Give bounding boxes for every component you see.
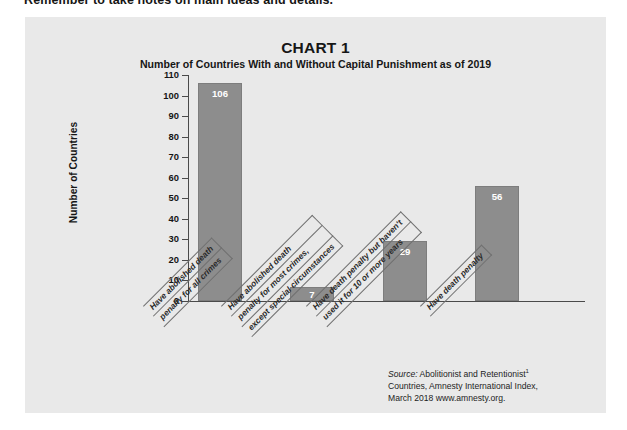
page-root: Remember to take notes on main ideas and… xyxy=(0,0,627,430)
bar-value-106: 106 xyxy=(198,88,242,99)
y-tick-label-30: 30 xyxy=(153,234,179,243)
source-superscript: 1 xyxy=(526,368,529,374)
y-tick-label-50: 50 xyxy=(153,193,179,202)
y-tick-70 xyxy=(182,157,188,158)
source-note: Source: Abolitionist and Retentionist1 C… xyxy=(388,365,598,404)
instruction-text: Remember to take notes on main ideas and… xyxy=(24,0,333,7)
y-tick-label-70: 70 xyxy=(153,152,179,161)
y-tick-30 xyxy=(182,239,188,240)
y-tick-label-100: 100 xyxy=(153,91,179,100)
y-tick-90 xyxy=(182,116,188,117)
source-line-2: Countries, Amnesty International Index, xyxy=(388,381,538,391)
y-tick-50 xyxy=(182,198,188,199)
y-tick-40 xyxy=(182,219,188,220)
y-tick-label-40: 40 xyxy=(153,214,179,223)
y-tick-label-90: 90 xyxy=(153,111,179,120)
source-line-3: March 2018 www.amnesty.org. xyxy=(388,393,505,403)
plot-area: Number of Countries 110 100 90 80 70 60 … xyxy=(25,17,606,413)
y-tick-60 xyxy=(182,178,188,179)
chart-panel: CHART 1 Number of Countries With and Wit… xyxy=(25,17,606,413)
y-tick-label-60: 60 xyxy=(153,173,179,182)
y-tick-80 xyxy=(182,137,188,138)
source-label: Source: xyxy=(388,369,418,379)
y-tick-label-20: 20 xyxy=(153,255,179,264)
y-tick-label-80: 80 xyxy=(153,132,179,141)
bar-value-56: 56 xyxy=(475,191,519,202)
y-tick-100 xyxy=(182,96,188,97)
source-line-1: Abolitionist and Retentionist xyxy=(418,369,526,379)
y-tick-label-110: 110 xyxy=(153,70,179,79)
y-tick-110 xyxy=(182,75,188,76)
y-axis-title: Number of Countries xyxy=(68,113,79,233)
